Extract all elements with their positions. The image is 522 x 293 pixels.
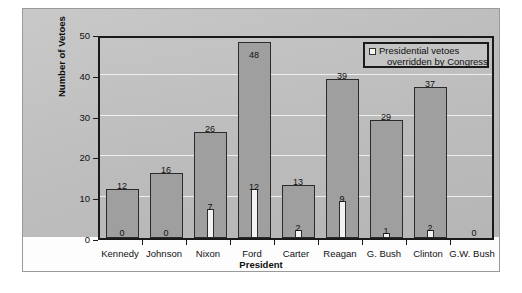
bar-value-label-vetoes: 26 (194, 124, 227, 134)
x-tick-label: G.W. Bush (442, 248, 502, 259)
y-tick-label: 10 (64, 193, 90, 204)
x-axis-title: President (23, 259, 499, 270)
x-tick-mark (362, 240, 363, 245)
bar-value-label-overrides: 12 (244, 182, 264, 192)
legend-box: Presidential vetoes overridden by Congre… (363, 42, 489, 68)
bar-value-label-overrides: 1 (376, 226, 396, 236)
bar-value-label-overrides: 7 (200, 202, 220, 212)
bar-value-label-vetoes: 48 (238, 50, 271, 60)
bar-vetoes (370, 120, 403, 238)
bar-overrides (251, 189, 258, 238)
legend-label-line2: overridden by Congress (387, 56, 488, 67)
x-tick-mark (142, 240, 143, 245)
x-tick-mark (318, 240, 319, 245)
y-tick-label: 40 (64, 71, 90, 82)
bar-vetoes (414, 87, 447, 238)
legend-swatch-override-icon (369, 48, 376, 55)
chart-frame: Number of Vetoes President 01020304050 K… (22, 8, 500, 272)
bar-overrides (339, 201, 346, 238)
x-tick-mark (274, 240, 275, 245)
x-tick-mark (186, 240, 187, 245)
bar-value-label-overrides: 0 (156, 228, 176, 238)
x-tick-mark (230, 240, 231, 245)
y-tick-label: 30 (64, 112, 90, 123)
bar-value-label-overrides: 0 (112, 228, 132, 238)
bar-value-label-vetoes: 13 (282, 177, 315, 187)
bar-series-container: 12016026748121323992913720 (100, 38, 492, 238)
legend-label-line1: Presidential vetoes (379, 45, 459, 56)
bar-value-label-overrides: 9 (332, 194, 352, 204)
y-axis-title: Number of Vetoes (56, 16, 67, 97)
bar-value-label-overrides: 2 (288, 223, 308, 233)
bar-value-label-vetoes: 37 (414, 79, 447, 89)
bar-value-label-vetoes: 39 (326, 71, 359, 81)
y-tick-mark (93, 240, 98, 241)
bar-value-label-vetoes: 12 (106, 181, 139, 191)
y-tick-label: 20 (64, 152, 90, 163)
bar-value-label-vetoes: 0 (458, 228, 491, 238)
y-tick-label: 0 (64, 234, 90, 245)
y-tick-label: 50 (64, 30, 90, 41)
bar-value-label-overrides: 2 (420, 223, 440, 233)
x-tick-mark (450, 240, 451, 245)
bar-overrides (207, 209, 214, 238)
x-tick-mark (406, 240, 407, 245)
bar-value-label-vetoes: 16 (150, 165, 183, 175)
bar-value-label-vetoes: 29 (370, 112, 403, 122)
chart-screenshot: Number of Vetoes President 01020304050 K… (0, 0, 522, 293)
